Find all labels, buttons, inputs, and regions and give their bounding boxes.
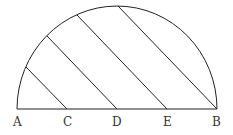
semicircle-diagram: A C D E B [0, 0, 233, 135]
point-label-A: A [12, 115, 22, 129]
point-label-D: D [112, 115, 122, 129]
point-label-B: B [212, 115, 221, 129]
point-label-E: E [163, 115, 172, 129]
point-label-C: C [63, 115, 72, 129]
chord-from-B [118, 6, 217, 109]
chord-from-E [77, 15, 167, 109]
chord-from-D [47, 36, 117, 109]
chord-from-C [26, 67, 67, 109]
semicircle-arc [17, 6, 217, 109]
